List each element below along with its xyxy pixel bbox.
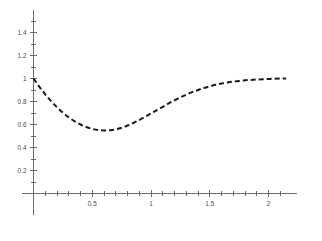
y-tick-label: 0.8	[18, 98, 27, 105]
y-tick-label: 0.6	[18, 121, 27, 128]
y-tick-label: 1.2	[18, 52, 27, 59]
y-tick-label: 0.2	[18, 167, 27, 174]
axes-group	[22, 10, 297, 215]
x-tick-label: 2	[267, 200, 271, 207]
x-tick-label: 1	[149, 200, 153, 207]
y-tick-label: 1.4	[18, 29, 27, 36]
x-tick-label: 1.5	[205, 200, 214, 207]
plot-canvas: 0.20.40.60.811.21.4 0.511.52	[0, 0, 322, 241]
y-axis-tick-labels: 0.20.40.60.811.21.4	[18, 29, 27, 174]
y-tick-label: 0.4	[18, 144, 27, 151]
y-tick-label: 1	[23, 75, 27, 82]
x-axis-tick-labels: 0.511.52	[88, 200, 271, 207]
data-series-curve	[34, 79, 287, 131]
x-axis-minor-ticks	[45, 191, 280, 196]
x-tick-label: 0.5	[88, 200, 97, 207]
plot-figure: 0.20.40.60.811.21.4 0.511.52	[0, 0, 322, 241]
